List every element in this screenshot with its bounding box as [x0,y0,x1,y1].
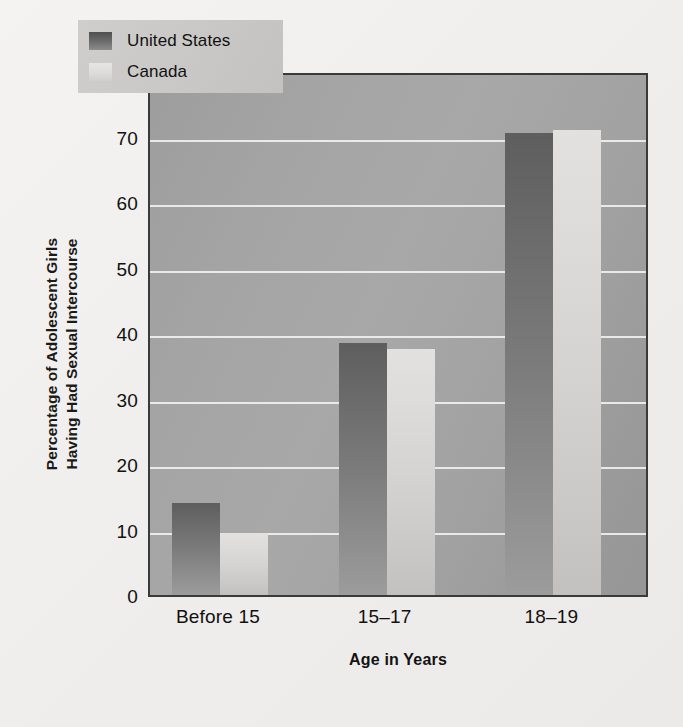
x-tick-label-15-17: 15–17 [358,606,412,628]
y-tick-label-70: 70 [88,128,138,150]
legend-label-canada: Canada [127,62,187,82]
bar-united-states-15-17 [339,343,387,595]
chart-legend: United States Canada [78,20,283,93]
legend-entry-canada: Canada [89,60,273,85]
y-axis-tick-labels: 01020304050607080 [88,73,138,597]
legend-entry-united-states: United States [89,29,273,54]
legend-label-united-states: United States [127,31,230,51]
plot-inner [150,75,646,595]
y-axis-title: Percentage of Adolescent Girls Having Ha… [39,124,85,584]
bar-united-states-before-15 [172,503,220,595]
y-axis-title-line-2: Having Had Sexual Intercourse [62,238,82,469]
y-tick-label-0: 0 [88,586,138,608]
y-tick-label-40: 40 [88,324,138,346]
legend-swatch-canada [89,63,112,81]
bar-united-states-18-19 [505,133,553,595]
x-axis-tick-labels: Before 1515–1718–19 [148,606,648,636]
x-tick-label-18-19: 18–19 [524,606,578,628]
legend-swatch-united-states [89,32,112,50]
y-axis-title-line-1: Percentage of Adolescent Girls [42,238,62,470]
x-axis-title: Age in Years [148,651,648,669]
y-tick-label-60: 60 [88,193,138,215]
y-tick-label-30: 30 [88,390,138,412]
y-tick-label-50: 50 [88,259,138,281]
x-tick-label-before-15: Before 15 [176,606,260,628]
plot-area [148,73,648,597]
y-tick-label-10: 10 [88,521,138,543]
bar-chart-figure: Percentage of Adolescent Girls Having Ha… [0,0,683,727]
bar-canada-15-17 [387,349,435,595]
y-tick-label-20: 20 [88,455,138,477]
bar-canada-18-19 [553,130,601,595]
bar-canada-before-15 [220,533,268,595]
